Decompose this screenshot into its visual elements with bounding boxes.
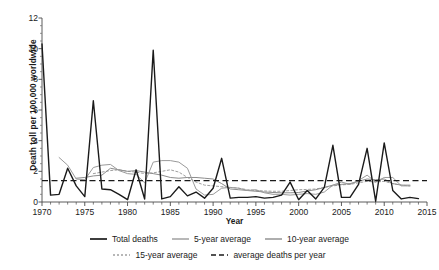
legend-row-1: Total deaths 5-year average 10-year aver… — [0, 231, 439, 247]
legend-label: Total deaths — [112, 234, 158, 244]
legend-item-average-deaths-per-year: average deaths per year — [211, 250, 325, 260]
legend-item-15-year-average: 15-year average — [113, 250, 197, 260]
solid-line-swatch — [265, 235, 282, 243]
y-tick-label: 12 — [29, 13, 38, 23]
legend-item-5-year-average: 5-year average — [172, 234, 251, 244]
series-line-total-deaths — [42, 44, 418, 201]
legend-item-10-year-average: 10-year average — [265, 234, 349, 244]
plot-area: 024681012 197019751980198519901995200020… — [42, 18, 427, 202]
y-tick-label: 10 — [29, 44, 38, 54]
legend-label: average deaths per year — [233, 250, 325, 260]
dashed-line-swatch — [211, 251, 228, 259]
y-tick-label: 8 — [33, 74, 38, 84]
y-tick-label: 4 — [33, 136, 38, 146]
chart-figure: Death toll per 100,000 worldwide 0246810… — [0, 0, 439, 270]
series-layer — [42, 44, 427, 201]
y-tick-label: 6 — [33, 105, 38, 115]
chart-svg — [42, 18, 427, 202]
legend-label: 5-year average — [194, 234, 251, 244]
legend-label: 10-year average — [287, 234, 349, 244]
solid-line-swatch — [172, 235, 189, 243]
legend-label: 15-year average — [135, 250, 197, 260]
x-axis-title: Year — [42, 216, 427, 226]
solid-line-swatch — [90, 235, 107, 243]
dotted-line-swatch — [113, 251, 130, 259]
y-tick-label: 0 — [33, 197, 38, 207]
legend-row-2: 15-year average average deaths per year — [0, 247, 439, 263]
axes-layer — [39, 18, 428, 206]
y-tick-label: 2 — [33, 166, 38, 176]
legend-item-total-deaths: Total deaths — [90, 234, 158, 244]
chart-legend: Total deaths 5-year average 10-year aver… — [0, 231, 439, 263]
